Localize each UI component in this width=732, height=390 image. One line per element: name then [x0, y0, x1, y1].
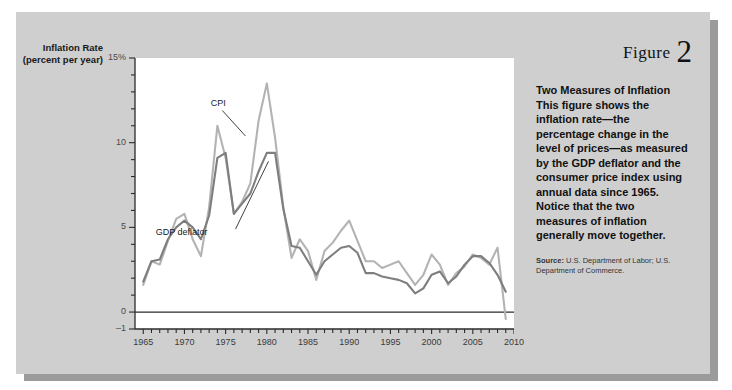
caption-source: Source: U.S. Department of Labor; U.S. D… [536, 256, 686, 277]
figure-word: Figure [623, 43, 670, 62]
figure-number: 2 [677, 34, 693, 69]
card-shadow-right [710, 20, 718, 378]
x-tick-label-1975: 1975 [206, 337, 246, 347]
source-label: Source: [536, 256, 564, 265]
figure-inner-surface: Inflation Rate (percent per year) –10510… [16, 12, 710, 374]
chart-svg [110, 44, 514, 334]
y-tick-label-5: 5 [121, 221, 126, 231]
card-shadow-bottom [24, 374, 718, 381]
x-tick-label-1995: 1995 [370, 337, 410, 347]
x-tick-label-2005: 2005 [453, 337, 493, 347]
caption-body: This figure shows the inflation rate—the… [536, 98, 688, 243]
y-axis-title-line2: (percent per year) [23, 54, 103, 66]
annotation-gdp-deflator: GDP deflator [156, 227, 208, 237]
x-tick-label-1970: 1970 [164, 337, 204, 347]
y-tick-label-15: 15% [108, 52, 126, 62]
caption-title: Two Measures of Inflation [536, 83, 686, 98]
x-tick-label-1985: 1985 [288, 337, 328, 347]
y-tick-label-0: 0 [121, 306, 126, 316]
x-tick-label-1980: 1980 [247, 337, 287, 347]
figure-number-row: Figure2 [536, 34, 706, 70]
y-tick-label-10: 10 [116, 137, 126, 147]
x-tick-label-1965: 1965 [123, 337, 163, 347]
y-axis-title: Inflation Rate (percent per year) [23, 42, 110, 66]
caption-panel: Figure2 Two Measures of Inflation This f… [536, 34, 706, 344]
x-tick-label-1990: 1990 [329, 337, 369, 347]
annotation-cpi: CPI [211, 98, 226, 108]
y-axis-title-line1: Inflation Rate [23, 42, 103, 54]
x-tick-label-2010: 2010 [494, 337, 534, 347]
y-tick-label-neg1: –1 [116, 323, 126, 333]
chart-region: Inflation Rate (percent per year) –10510… [110, 44, 514, 334]
x-tick-label-2000: 2000 [412, 337, 452, 347]
figure-card: Inflation Rate (percent per year) –10510… [16, 12, 710, 374]
